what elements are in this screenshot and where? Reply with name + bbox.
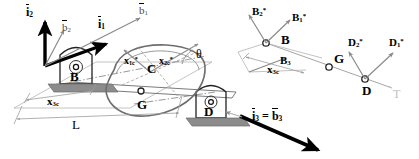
label-D1-star: D1*	[389, 37, 404, 49]
label-i1: i1	[98, 18, 105, 31]
label-i2-sub: 2	[29, 10, 33, 19]
label-b2-sub: 2	[68, 26, 71, 33]
label-b3-sub: 3	[279, 114, 283, 123]
label-equals-sign: =	[262, 109, 269, 123]
label-point-B-left: B	[70, 70, 79, 83]
dimension-L	[14, 96, 182, 124]
label-point-G-left: G	[137, 98, 147, 111]
label-B3-sub: 3	[287, 59, 290, 66]
axial-arrow-tail-gray	[226, 112, 242, 117]
label-x3c-left: x3c	[47, 96, 59, 108]
label-b1: b1	[139, 5, 148, 17]
label-x3c-right: x3c	[267, 64, 279, 76]
label-b1-sub: 1	[145, 9, 148, 16]
label-B1-star: B1*	[292, 12, 306, 24]
label-point-D-left: D	[204, 105, 213, 118]
label-x3c-right-sub: 3c	[273, 68, 279, 75]
label-B3: B3	[280, 55, 291, 67]
label-D2-star-sup: *	[359, 37, 362, 44]
point-markers-left	[138, 88, 144, 94]
label-point-G-right: G	[334, 52, 344, 65]
label-point-D-right: D	[362, 84, 371, 97]
label-T: T	[393, 88, 400, 100]
label-B2-star-sup: *	[263, 6, 266, 13]
label-i1-sub: 1	[101, 22, 105, 31]
label-i2: i2	[26, 6, 33, 19]
label-x1c-star: x1c*	[124, 56, 138, 66]
label-x2c-star: x2c*	[159, 56, 173, 66]
label-D1-star-sup: *	[400, 37, 403, 44]
label-b2: b2	[62, 22, 71, 34]
label-i3-sub: 3	[255, 114, 259, 123]
label-L: L	[72, 118, 80, 131]
label-point-B-right: B	[281, 33, 290, 46]
label-x1c-star-sup: *	[135, 55, 138, 62]
label-i3-equals-b3: i3 = b3	[252, 110, 282, 123]
eccentric-body-outline	[106, 45, 205, 116]
bearing-support-D	[186, 86, 250, 127]
label-theta: θ	[196, 48, 202, 60]
figure-canvas: i2 i1 b2 b1 B C G D x1c* x2c* θ x3c L B2…	[0, 0, 419, 159]
label-x2c-star-sup: *	[170, 55, 173, 62]
inertial-frame-arrows	[45, 22, 106, 66]
label-D2-star: D2*	[348, 37, 363, 49]
label-B2-star: B2*	[252, 6, 266, 18]
label-B1-star-sup: *	[303, 12, 306, 19]
label-x3c-left-sub: 3c	[53, 100, 59, 107]
label-point-C: C	[147, 62, 156, 75]
